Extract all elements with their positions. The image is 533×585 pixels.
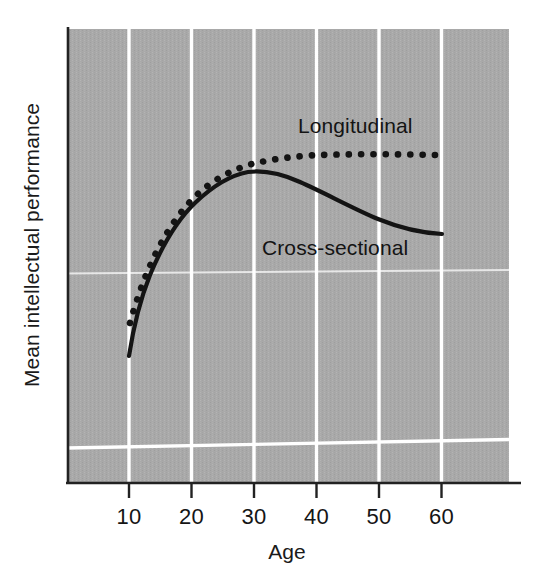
x-tick-label-50: 50 [367,504,392,529]
x-tick-label-60: 60 [429,504,454,529]
chart-svg: Longitudinal Cross-sectional 10 20 30 40… [0,0,533,585]
y-axis-title: Mean intellectual performance [20,103,43,387]
x-tick-label-20: 20 [179,504,204,529]
series-label-cross-sectional: Cross-sectional [262,236,408,259]
chart-figure: Longitudinal Cross-sectional 10 20 30 40… [0,0,533,585]
plot-area: Longitudinal Cross-sectional [67,29,509,482]
x-tick-label-30: 30 [242,504,267,529]
x-tick-label-40: 40 [304,504,329,529]
x-tick-label-10: 10 [117,504,142,529]
series-label-longitudinal: Longitudinal [298,114,412,137]
x-axis-title: Age [268,540,306,563]
